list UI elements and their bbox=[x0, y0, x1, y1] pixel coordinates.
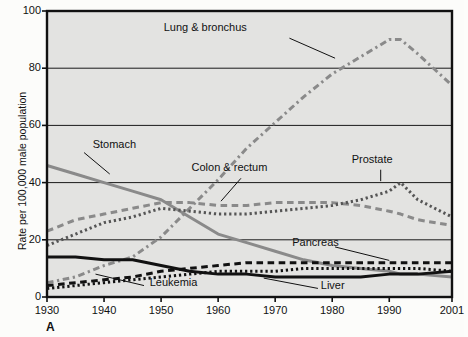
x-tick-label-1960: 1960 bbox=[202, 304, 234, 316]
x-tick-label-1950: 1950 bbox=[145, 304, 177, 316]
series-label-lung-bronchus: Lung & bronchus bbox=[164, 21, 247, 33]
series-label-prostate: Prostate bbox=[352, 153, 393, 165]
x-tick-label-1980: 1980 bbox=[316, 304, 348, 316]
y-axis-title: Rate per 100,000 male population bbox=[16, 92, 28, 250]
series-label-leukemia: Leukemia bbox=[150, 276, 198, 288]
y-tick-label-40: 40 bbox=[10, 176, 41, 188]
y-tick-label-0: 0 bbox=[10, 290, 41, 302]
series-label-liver: Liver bbox=[321, 279, 345, 291]
y-tick-label-80: 80 bbox=[10, 61, 41, 73]
x-tick-label-1970: 1970 bbox=[259, 304, 291, 316]
y-tick-label-60: 60 bbox=[10, 118, 41, 130]
series-label-colon-rectum: Colon & rectum bbox=[192, 161, 268, 173]
x-tick-label-1990: 1990 bbox=[373, 304, 405, 316]
series-label-stomach: Stomach bbox=[93, 138, 136, 150]
y-tick-label-100: 100 bbox=[10, 4, 41, 16]
y-tick-label-20: 20 bbox=[10, 233, 41, 245]
series-label-pancreas: Pancreas bbox=[292, 236, 338, 248]
x-tick-label-1940: 1940 bbox=[88, 304, 120, 316]
x-tick-label-2001: 2001 bbox=[436, 304, 468, 316]
panel-letter: A bbox=[46, 320, 55, 334]
x-tick-label-1930: 1930 bbox=[31, 304, 63, 316]
